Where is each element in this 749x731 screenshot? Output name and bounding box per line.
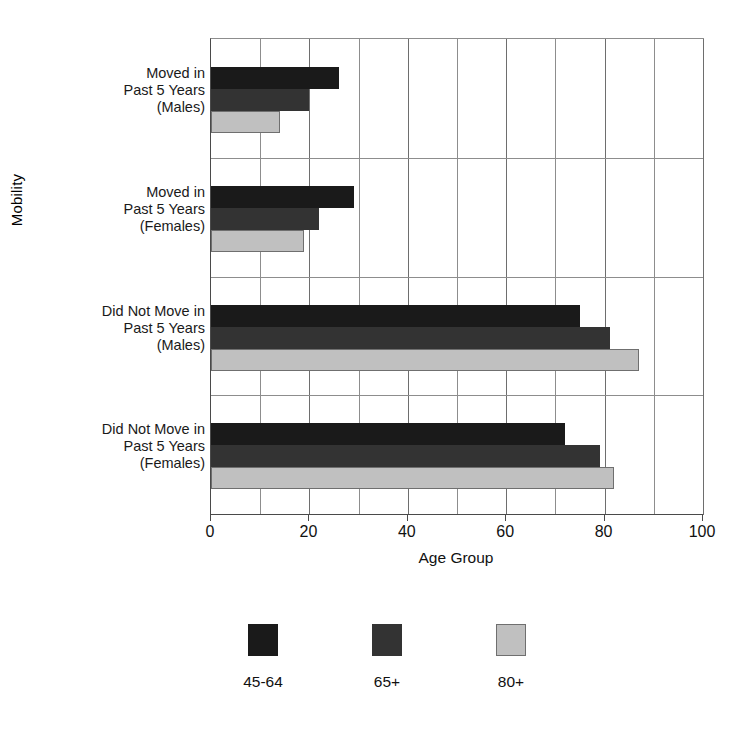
plot-area: [210, 38, 704, 515]
y-axis-tick-labels: Moved inPast 5 Years(Males)Moved inPast …: [45, 38, 205, 513]
bar: [211, 423, 565, 445]
legend-label: 65+: [342, 673, 432, 691]
y-axis-tick-label-line: Past 5 Years: [50, 82, 205, 99]
legend-label: 45-64: [218, 673, 308, 691]
legend-swatch-65plus: [372, 624, 402, 656]
gridline-x-100: [703, 39, 704, 514]
bar: [211, 186, 354, 208]
category-separator: [211, 395, 703, 396]
y-axis-tick-label-line: Did Not Move in: [50, 421, 205, 438]
x-axis-tick: [407, 514, 408, 521]
legend-item[interactable]: 45-64: [218, 624, 308, 691]
x-axis-tick: [604, 514, 605, 521]
legend-swatch-45-64: [248, 624, 278, 656]
bar: [211, 445, 600, 467]
bar: [211, 230, 304, 252]
y-axis-tick-label: Did Not Move inPast 5 Years(Females): [50, 421, 205, 472]
bar: [211, 111, 280, 133]
y-axis-title: Mobility: [8, 140, 25, 260]
y-axis-tick-label-line: Moved in: [50, 184, 205, 201]
x-axis-tick: [210, 514, 211, 521]
x-axis-tick-label: 40: [377, 523, 437, 541]
x-axis-tick-label: 100: [672, 523, 732, 541]
y-axis-tick-label: Did Not Move inPast 5 Years(Males): [50, 303, 205, 354]
x-axis-title: Age Group: [210, 549, 702, 567]
bar: [211, 67, 339, 89]
x-axis-tick-label: 80: [574, 523, 634, 541]
y-axis-tick-label-line: (Females): [50, 218, 205, 235]
x-axis-tick: [308, 514, 309, 521]
chart-legend: 45-6465+80+: [210, 624, 630, 704]
category-separator: [211, 277, 703, 278]
x-axis-tick-label: 0: [180, 523, 240, 541]
bar: [211, 349, 639, 371]
x-axis-tick-label: 60: [475, 523, 535, 541]
y-axis-tick-label: Moved inPast 5 Years(Males): [50, 65, 205, 116]
y-axis-tick-label-line: Did Not Move in: [50, 303, 205, 320]
y-axis-tick-label-line: (Females): [50, 455, 205, 472]
legend-label: 80+: [466, 673, 556, 691]
y-axis-tick-label-line: (Males): [50, 99, 205, 116]
x-axis-tick: [505, 514, 506, 521]
bar: [211, 208, 319, 230]
y-axis-tick-label-line: Moved in: [50, 65, 205, 82]
legend-item[interactable]: 65+: [342, 624, 432, 691]
bar: [211, 467, 614, 489]
y-axis-tick-label: Moved inPast 5 Years(Females): [50, 184, 205, 235]
y-axis-tick-label-line: Past 5 Years: [50, 320, 205, 337]
x-axis-tick-label: 20: [278, 523, 338, 541]
legend-swatch-80plus: [496, 624, 526, 656]
legend-item[interactable]: 80+: [466, 624, 556, 691]
bar: [211, 305, 580, 327]
x-axis-tick: [702, 514, 703, 521]
y-axis-tick-label-line: Past 5 Years: [50, 438, 205, 455]
category-separator: [211, 158, 703, 159]
y-axis-tick-label-line: Past 5 Years: [50, 201, 205, 218]
y-axis-tick-label-line: (Males): [50, 337, 205, 354]
bar: [211, 89, 309, 111]
bar: [211, 327, 610, 349]
bar-chart-figure: Mobility Moved inPast 5 Years(Males)Move…: [0, 0, 749, 731]
